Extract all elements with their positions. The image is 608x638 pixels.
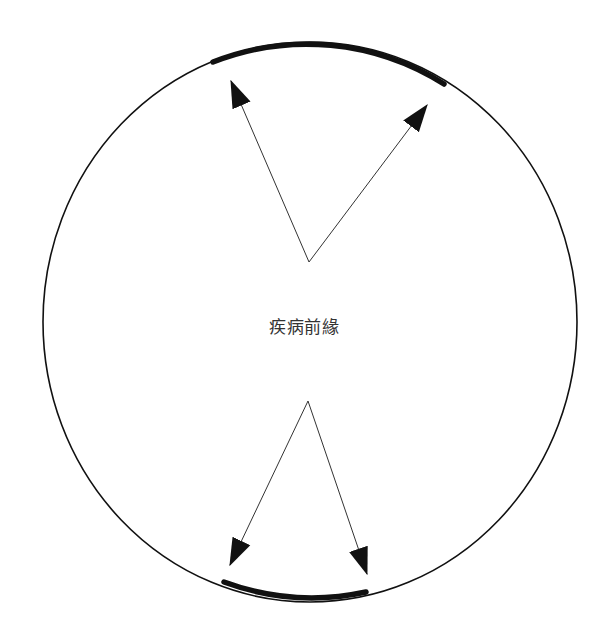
upper-advancing-margin <box>213 44 444 84</box>
lower-advancing-margin <box>224 582 366 598</box>
upper-right-arrow <box>309 105 427 262</box>
upper-left-arrow <box>231 81 309 262</box>
center-label: 疾病前緣 <box>0 313 608 338</box>
lower-right-arrow <box>308 401 367 574</box>
lower-left-arrow <box>230 401 308 565</box>
